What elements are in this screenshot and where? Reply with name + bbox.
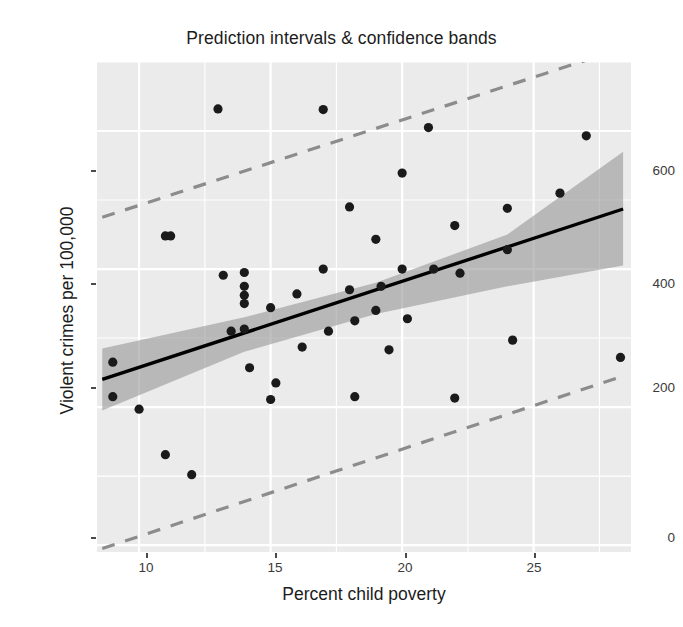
- x-tick-mark-20: [405, 553, 407, 558]
- data-point: [240, 268, 249, 277]
- plot-panel: [97, 62, 631, 552]
- data-point: [376, 282, 385, 291]
- data-point: [345, 285, 354, 294]
- data-point: [161, 450, 170, 459]
- y-tick-label-0: 0: [667, 530, 675, 545]
- data-point: [108, 358, 117, 367]
- x-tick-label-25: 25: [514, 560, 554, 575]
- data-point: [503, 245, 512, 254]
- data-point: [187, 470, 196, 479]
- scatter-plot-canvas: [97, 62, 631, 552]
- data-point: [266, 395, 275, 404]
- x-tick-mark-25: [534, 553, 536, 558]
- data-point: [350, 392, 359, 401]
- data-point: [240, 299, 249, 308]
- data-point: [240, 324, 249, 333]
- data-point: [345, 202, 354, 211]
- y-tick-mark-400: [91, 283, 96, 285]
- data-point: [108, 392, 117, 401]
- y-tick-mark-0: [91, 537, 96, 539]
- data-point: [271, 378, 280, 387]
- x-tick-label-20: 20: [385, 560, 425, 575]
- data-point: [429, 264, 438, 273]
- data-point: [319, 264, 328, 273]
- data-point: [455, 269, 464, 278]
- data-point: [292, 289, 301, 298]
- data-point: [403, 314, 412, 323]
- x-tick-mark-15: [275, 553, 277, 558]
- x-tick-label-15: 15: [255, 560, 295, 575]
- data-point: [371, 306, 380, 315]
- y-tick-label-400: 400: [652, 276, 675, 291]
- data-point: [371, 235, 380, 244]
- x-tick-label-10: 10: [126, 560, 166, 575]
- data-point: [240, 291, 249, 300]
- data-point: [555, 189, 564, 198]
- data-point: [324, 327, 333, 336]
- data-point: [134, 405, 143, 414]
- data-point: [398, 169, 407, 178]
- data-point: [450, 393, 459, 402]
- data-point: [582, 131, 591, 140]
- data-point: [616, 353, 625, 362]
- chart-figure: Prediction intervals & confidence bands …: [0, 0, 683, 627]
- data-point: [298, 342, 307, 351]
- data-point: [503, 204, 512, 213]
- data-point: [166, 231, 175, 240]
- data-point: [508, 336, 517, 345]
- data-point: [319, 105, 328, 114]
- data-point: [213, 104, 222, 113]
- data-point: [266, 303, 275, 312]
- y-tick-label-600: 600: [652, 163, 675, 178]
- data-point: [398, 264, 407, 273]
- data-point: [424, 123, 433, 132]
- y-tick-label-200: 200: [652, 380, 675, 395]
- x-tick-mark-10: [146, 553, 148, 558]
- data-point: [219, 271, 228, 280]
- data-point: [450, 221, 459, 230]
- y-tick-mark-600: [91, 170, 96, 172]
- data-point: [245, 363, 254, 372]
- data-point: [227, 327, 236, 336]
- y-tick-mark-200: [91, 387, 96, 389]
- data-point: [350, 316, 359, 325]
- data-point: [240, 282, 249, 291]
- data-point: [384, 345, 393, 354]
